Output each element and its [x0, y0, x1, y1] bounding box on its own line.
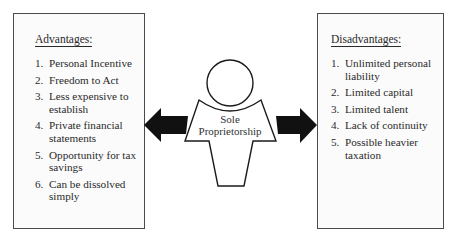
person-head-icon: [207, 60, 253, 106]
center-label-line1: Sole: [200, 113, 260, 125]
center-label-line2: Proprietorship: [185, 125, 275, 137]
arrow-left-icon: [144, 108, 188, 142]
arrow-right-icon: [276, 108, 317, 143]
